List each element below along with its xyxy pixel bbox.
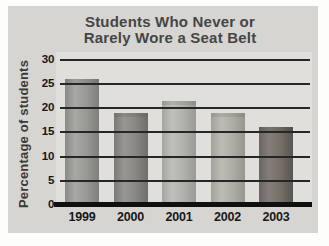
- chart-title: Students Who Never or Rarely Wore a Seat…: [8, 14, 318, 46]
- x-axis-baseline: [54, 202, 312, 207]
- x-tick-label-2002: 2002: [206, 210, 250, 224]
- x-tick-label-2000: 2000: [109, 210, 153, 224]
- chart-title-line2: Rarely Wore a Seat Belt: [22, 30, 318, 46]
- y-tick-label-15: 15: [22, 125, 54, 137]
- bar-cap: [211, 113, 245, 117]
- gridline-20: [60, 107, 310, 109]
- y-tick-label-25: 25: [22, 77, 54, 89]
- y-tick-label-30: 30: [22, 53, 54, 65]
- bar-cap: [162, 101, 196, 105]
- chart-card: Students Who Never or Rarely Wore a Seat…: [8, 6, 318, 233]
- chart-title-line1: Students Who Never or: [22, 14, 318, 30]
- x-tick-label-2003: 2003: [254, 210, 298, 224]
- gridline-25: [60, 83, 310, 85]
- bar-2003: [259, 127, 293, 207]
- y-tick-label-0: 0: [22, 198, 54, 210]
- x-tick-label-2001: 2001: [157, 210, 201, 224]
- x-tick-label-1999: 1999: [60, 210, 104, 224]
- bar-1999: [65, 79, 99, 207]
- bar-2001: [162, 101, 196, 207]
- y-tick-label-5: 5: [22, 174, 54, 186]
- gridline-10: [60, 156, 310, 158]
- y-tick-label-20: 20: [22, 101, 54, 113]
- bar-2002: [211, 113, 245, 207]
- gridline-5: [60, 180, 310, 182]
- y-tick-label-10: 10: [22, 150, 54, 162]
- gridline-15: [60, 131, 310, 133]
- bar-2000: [114, 113, 148, 207]
- bar-cap: [114, 113, 148, 117]
- gridline-30: [60, 59, 310, 61]
